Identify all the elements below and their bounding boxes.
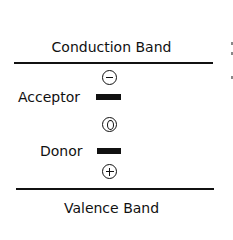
conduction-band-line	[14, 62, 213, 64]
zero-circle-icon	[102, 117, 117, 132]
donor-level-bar	[97, 148, 121, 154]
acceptor-level-bar	[96, 94, 121, 100]
scan-artifact	[231, 42, 233, 45]
scan-artifact	[231, 76, 233, 79]
donor-label: Donor	[40, 143, 83, 159]
minus-circle-icon	[102, 70, 117, 85]
acceptor-label: Acceptor	[18, 89, 80, 105]
valence-band-line	[16, 188, 214, 190]
conduction-band-label: Conduction Band	[4, 39, 219, 55]
valence-band-label: Valence Band	[4, 200, 219, 216]
scan-artifact	[231, 52, 233, 55]
plus-circle-icon	[102, 164, 117, 179]
